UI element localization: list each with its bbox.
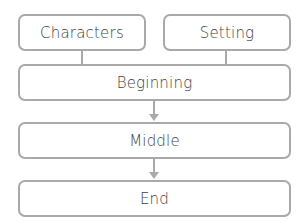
characters-label: Characters	[40, 24, 124, 42]
setting-box: Setting	[163, 14, 291, 51]
end-label: End	[140, 190, 169, 208]
arrow-down-icon	[149, 114, 159, 121]
middle-box: Middle	[18, 122, 291, 159]
middle-label: Middle	[129, 132, 180, 150]
arrow-down-icon	[149, 172, 159, 179]
beginning-box: Beginning	[18, 64, 291, 101]
connector-characters-beginning	[81, 51, 83, 65]
beginning-label: Beginning	[117, 74, 193, 92]
setting-label: Setting	[200, 24, 255, 42]
arrow-line-beginning-middle	[153, 101, 155, 115]
connector-setting-beginning	[225, 51, 227, 65]
arrow-line-middle-end	[153, 159, 155, 173]
characters-box: Characters	[18, 14, 146, 51]
end-box: End	[18, 180, 291, 217]
